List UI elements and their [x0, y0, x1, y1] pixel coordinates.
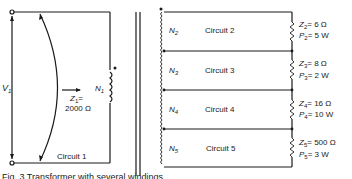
p2-label: P2= 5 W	[299, 31, 329, 43]
junction-dot	[291, 128, 294, 131]
n5-label: N5	[169, 144, 178, 156]
v1-arrowhead-down	[10, 154, 14, 159]
v1-label: V1	[2, 84, 11, 96]
polarity-dot-primary	[114, 67, 117, 70]
terminal-top	[10, 10, 14, 14]
figure-caption: Fig. 3 Transformer with several windings	[2, 172, 163, 179]
p5-label: P5= 3 W	[299, 150, 329, 162]
circuit-4-label: Circuit 4	[205, 105, 234, 114]
n3-label: N3	[169, 66, 178, 78]
junction-dot	[291, 89, 294, 92]
secondary-coil	[161, 12, 163, 164]
z3-label: Z3= 8 Ω	[299, 59, 327, 71]
junction-dot	[163, 50, 166, 53]
resistor-z5	[290, 138, 294, 157]
circuit-2-label: Circuit 2	[205, 26, 234, 35]
z5-label: Z5= 500 Ω	[299, 138, 336, 150]
resistor-z4	[290, 100, 294, 119]
p3-label: P3= 2 W	[299, 71, 329, 83]
z1-value: 2000 Ω	[65, 104, 91, 113]
n2-label: N2	[169, 26, 178, 38]
junction-dot	[163, 89, 166, 92]
resistor-z3	[290, 60, 294, 79]
v1-arrowhead-up	[10, 16, 14, 21]
circuit-3-label: Circuit 3	[205, 66, 234, 75]
z1-curved-arrow	[40, 14, 58, 161]
n4-label: N4	[169, 105, 178, 117]
circuit-1-label: Circuit 1	[57, 152, 86, 161]
primary-coil	[110, 72, 112, 102]
polarity-dot-secondary	[160, 8, 163, 11]
junction-dot	[163, 128, 166, 131]
terminal-bottom	[10, 161, 14, 165]
resistor-z2	[290, 22, 294, 41]
junction-dot	[291, 50, 294, 53]
z1-arrowhead	[76, 88, 81, 92]
p4-label: P4= 10 W	[299, 110, 333, 122]
circuit-5-label: Circuit 5	[206, 144, 235, 153]
n1-label: N1	[95, 84, 104, 96]
